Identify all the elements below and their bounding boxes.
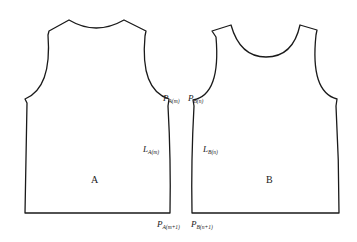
point-p-a-m: PA(m) xyxy=(162,93,180,105)
line-l-b-n: LB(n) xyxy=(202,144,218,156)
line-l-a-m: LA(m) xyxy=(142,144,159,156)
point-p-b-n-plus-1: PB(n+1) xyxy=(190,219,213,231)
point-p-b-n: PB(n) xyxy=(187,93,203,105)
piece-a-label: A xyxy=(91,174,99,185)
point-p-a-m-plus-1: PA(m+1) xyxy=(156,219,180,231)
garment-pattern-diagram: A PA(m) LA(m) PA(m+1) B PB(n) LB(n) PB(n… xyxy=(0,0,357,242)
piece-b-label: B xyxy=(266,174,273,185)
